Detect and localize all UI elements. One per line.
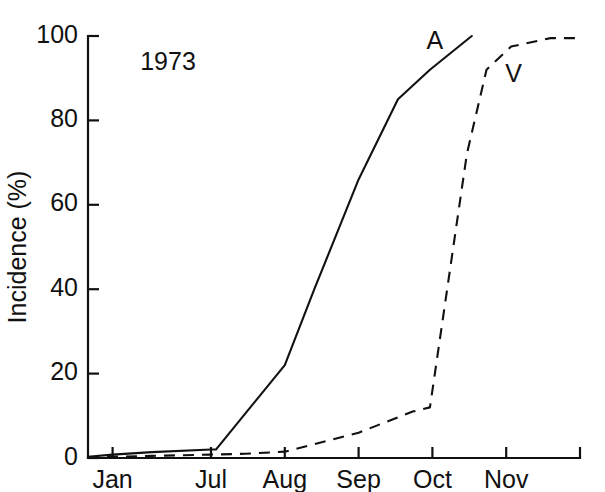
series-labels: AV bbox=[427, 26, 523, 88]
series-lines bbox=[88, 36, 580, 458]
y-axis-ticks bbox=[88, 36, 99, 458]
year-annotation: 1973 bbox=[140, 47, 196, 75]
x-tick-label-nov: Nov bbox=[484, 465, 529, 492]
x-axis-ticks bbox=[113, 447, 580, 458]
y-tick-label-20: 20 bbox=[50, 357, 78, 385]
x-axis-tick-labels: JanJulAugSepOctNov bbox=[92, 465, 528, 492]
series-line-v bbox=[88, 38, 580, 458]
x-tick-label-aug: Aug bbox=[263, 465, 307, 492]
y-tick-label-100: 100 bbox=[36, 20, 78, 48]
y-tick-label-0: 0 bbox=[64, 442, 78, 470]
x-tick-label-jan: Jan bbox=[92, 465, 132, 492]
series-label-a: A bbox=[427, 26, 444, 54]
y-axis-title: Incidence (%) bbox=[3, 171, 31, 324]
x-tick-label-oct: Oct bbox=[413, 465, 452, 492]
y-tick-label-40: 40 bbox=[50, 273, 78, 301]
series-line-a bbox=[88, 36, 472, 457]
y-axis-tick-labels: 020406080100 bbox=[36, 20, 78, 470]
chart-container: 020406080100 JanJulAugSepOctNov Incidenc… bbox=[0, 0, 605, 492]
series-label-v: V bbox=[505, 59, 522, 87]
x-tick-label-jul: Jul bbox=[195, 465, 227, 492]
y-tick-label-60: 60 bbox=[50, 188, 78, 216]
y-tick-label-80: 80 bbox=[50, 104, 78, 132]
x-tick-label-sep: Sep bbox=[336, 465, 380, 492]
incidence-line-chart: 020406080100 JanJulAugSepOctNov Incidenc… bbox=[0, 0, 605, 492]
